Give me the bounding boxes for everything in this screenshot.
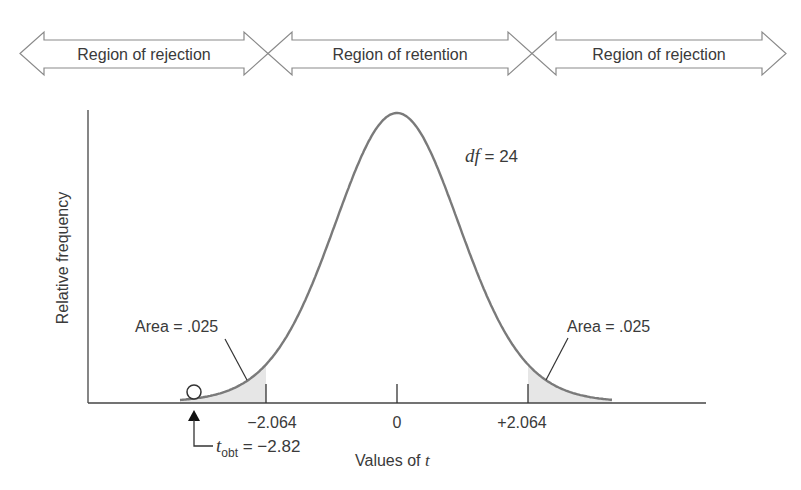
right-area-label: Area = .025 bbox=[567, 318, 650, 335]
region-label: Region of rejection bbox=[77, 46, 210, 63]
region-arrow-2: Region of retention bbox=[268, 32, 532, 75]
region-label: Region of retention bbox=[332, 46, 467, 63]
t-obtained-marker bbox=[187, 385, 201, 399]
region-label: Region of rejection bbox=[592, 46, 725, 63]
t-obtained-arrowhead bbox=[188, 410, 200, 421]
df-label: df = 24 bbox=[465, 145, 518, 166]
left-area-leader bbox=[225, 339, 247, 380]
t-distribution-chart: Region of rejectionRegion of retentionRe… bbox=[0, 0, 801, 490]
t-curve bbox=[180, 113, 612, 400]
x-axis-label: Values of t bbox=[355, 451, 431, 470]
right-rejection-area bbox=[528, 365, 612, 404]
region-arrow-1: Region of rejection bbox=[20, 32, 268, 75]
x-tick-label: 0 bbox=[393, 414, 402, 431]
y-axis-label: Relative frequency bbox=[54, 192, 71, 325]
x-tick-label: −2.064 bbox=[247, 414, 296, 431]
x-tick-label: +2.064 bbox=[497, 414, 546, 431]
region-arrow-3: Region of rejection bbox=[532, 32, 786, 75]
region-arrows: Region of rejectionRegion of retentionRe… bbox=[20, 32, 786, 75]
right-area-leader bbox=[546, 338, 568, 380]
left-area-label: Area = .025 bbox=[135, 318, 218, 335]
t-obtained-leader bbox=[194, 420, 213, 446]
x-ticks: −2.0640+2.064 bbox=[247, 384, 546, 431]
t-obtained-label: tobt = −2.82 bbox=[216, 435, 300, 460]
